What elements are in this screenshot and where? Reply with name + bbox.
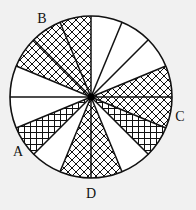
label-c: C xyxy=(175,110,184,124)
circle-diagram xyxy=(0,0,196,210)
label-b: B xyxy=(37,12,46,26)
center-point xyxy=(88,94,95,101)
label-a: A xyxy=(13,145,23,159)
label-d: D xyxy=(86,187,96,201)
sector-circle-figure: B C A D xyxy=(0,0,196,210)
